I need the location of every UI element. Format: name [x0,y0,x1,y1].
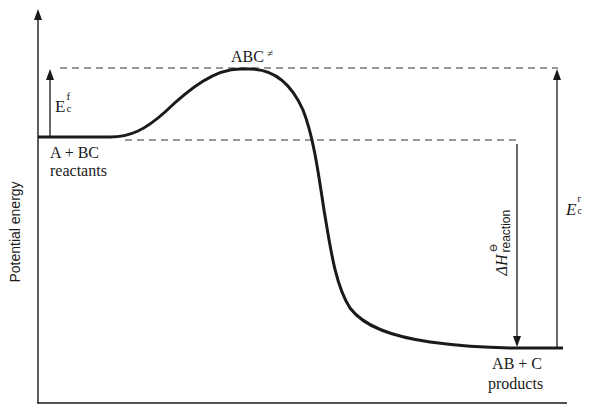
reverse-activation-arrow [553,69,561,348]
y-axis-label-text: Potential energy [7,181,23,282]
ea-forward-sup: f [66,91,70,102]
forward-activation-label: E f c [55,95,73,115]
ea-reverse-sub: c [577,206,581,216]
delta-h-sub: reaction [500,210,512,253]
reverse-activation-label: E r c [566,198,584,218]
enthalpy-change-label: ΔH ⊖ reaction [494,187,516,287]
ea-forward-sub: c [66,103,71,114]
energy-curve [38,69,563,348]
products-name: products [488,376,543,392]
y-axis [34,9,42,403]
ea-forward-base: E [55,97,65,116]
ea-reverse-base: E [566,200,576,219]
y-axis-arrowhead-icon [34,9,42,20]
arrow-up-icon [553,69,561,80]
standard-state-symbol: ⊖ [488,243,499,252]
arrow-down-icon [513,336,521,347]
products-label: AB + C products [488,356,543,392]
energy-diagram: Potential energy E f c ABC≠ A + BC react… [0,0,601,413]
products-formula: AB + C [491,356,543,372]
reactants-formula: A + BC [50,145,107,161]
delta-h-base: ΔH [493,255,510,276]
y-axis-label: Potential energy [8,177,22,287]
forward-activation-arrow [46,69,54,137]
reactants-name: reactants [50,163,107,179]
transition-state-label: ABC≠ [231,48,273,65]
double-dagger-symbol: ≠ [267,47,273,59]
transition-state-formula: ABC [231,48,264,65]
arrow-up-icon [46,69,54,80]
ea-reverse-sup: r [577,194,580,204]
reactants-label: A + BC reactants [50,145,107,179]
